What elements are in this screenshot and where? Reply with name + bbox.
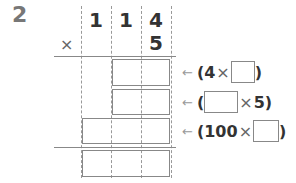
note-right: 5 [254, 93, 265, 112]
multiplicand-hundreds: 1 [81, 8, 111, 32]
left-arrow-icon: ← [182, 124, 193, 139]
note-left: 100 [204, 122, 237, 141]
note-2-input[interactable] [204, 91, 238, 113]
note-row-3: ← ( 100 × ) [182, 118, 286, 144]
paren-open: ( [197, 93, 204, 112]
multiply-sign: × [60, 35, 73, 54]
note-row-2: ← ( × 5 ) [182, 89, 272, 115]
paren-open: ( [197, 63, 204, 82]
times-icon: × [216, 63, 229, 82]
multiplicand-tens: 1 [111, 8, 141, 32]
times-icon: × [239, 93, 252, 112]
paren-open: ( [197, 122, 204, 141]
question-number: 2 [12, 2, 27, 27]
left-arrow-icon: ← [182, 95, 193, 110]
sum-line [54, 147, 176, 148]
note-3-input[interactable] [253, 120, 279, 142]
multiplier-digit: 5 [141, 31, 171, 55]
partial-product-1-input[interactable] [112, 59, 170, 86]
final-product-input[interactable] [82, 150, 170, 177]
paren-close: ) [265, 93, 272, 112]
paren-close: ) [255, 63, 262, 82]
note-1-input[interactable] [231, 61, 255, 83]
grid-line [171, 6, 172, 178]
multiplicand-ones: 4 [141, 8, 171, 32]
partial-product-2-input[interactable] [112, 89, 170, 115]
note-left: 4 [204, 63, 215, 82]
left-arrow-icon: ← [182, 65, 193, 80]
product-line [54, 56, 176, 57]
partial-product-3-input[interactable] [82, 118, 170, 144]
note-row-1: ← ( 4 × ) [182, 59, 262, 85]
times-icon: × [239, 122, 252, 141]
paren-close: ) [279, 122, 286, 141]
